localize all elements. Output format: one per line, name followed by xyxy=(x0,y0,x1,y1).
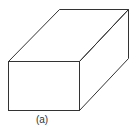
top-face xyxy=(9,10,129,62)
front-face xyxy=(9,62,80,111)
side-face xyxy=(80,10,129,111)
figure-label: (a) xyxy=(28,114,56,125)
box-diagram xyxy=(0,0,136,137)
